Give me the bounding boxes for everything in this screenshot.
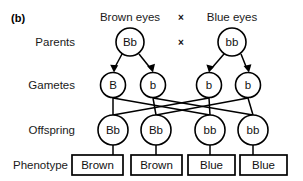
offspring-node-4: bb bbox=[238, 115, 268, 145]
row-label-gametes: Gametes bbox=[28, 79, 75, 91]
phenotype-label-3: Blue bbox=[200, 159, 223, 171]
phenotype-label-4: Blue bbox=[252, 159, 275, 171]
gamete-node-2: b bbox=[141, 73, 166, 98]
punnett-cross-svg: (b) Brown eyes × Blue eyes Parents Gamet… bbox=[0, 0, 303, 181]
offspring-genotype-1: Bb bbox=[106, 124, 120, 136]
offspring-node-3: bb bbox=[195, 115, 225, 145]
phenotype-box-1: Brown bbox=[72, 155, 123, 175]
cross-symbol-top: × bbox=[178, 12, 184, 23]
gamete-allele-2: b bbox=[150, 79, 156, 91]
parent-node-1: Bb bbox=[116, 28, 144, 56]
cross-symbol-parents: × bbox=[178, 37, 184, 48]
offspring-genotype-3: bb bbox=[204, 124, 217, 136]
genetics-cross-diagram: (b) Brown eyes × Blue eyes Parents Gamet… bbox=[0, 0, 303, 181]
phenotype-label-1: Brown bbox=[81, 159, 114, 171]
panel-label: (b) bbox=[11, 12, 25, 24]
parent-genotype-2: bb bbox=[226, 36, 239, 48]
phenotype-box-2: Brown bbox=[131, 155, 182, 175]
gamete-node-1: B bbox=[101, 73, 126, 98]
right-parent-phenotype-label: Blue eyes bbox=[207, 11, 258, 23]
row-label-parents: Parents bbox=[35, 36, 75, 48]
gamete-node-4: b bbox=[236, 73, 261, 98]
left-parent-phenotype-label: Brown eyes bbox=[100, 11, 160, 23]
offspring-genotype-4: bb bbox=[247, 124, 260, 136]
row-label-offspring: Offspring bbox=[29, 124, 75, 136]
parent-node-2: bb bbox=[218, 28, 246, 56]
gamete-allele-4: b bbox=[245, 79, 251, 91]
gamete-allele-3: b bbox=[206, 79, 212, 91]
connector-b3-off3 bbox=[209, 98, 210, 115]
phenotype-box-4: Blue bbox=[240, 155, 287, 175]
offspring-node-2: Bb bbox=[141, 115, 171, 145]
offspring-genotype-2: Bb bbox=[149, 124, 163, 136]
phenotype-box-3: Blue bbox=[188, 155, 235, 175]
row-label-phenotype: Phenotype bbox=[13, 159, 68, 171]
gamete-node-3: b bbox=[197, 73, 222, 98]
gamete-allele-1: B bbox=[109, 79, 117, 91]
phenotype-label-2: Brown bbox=[140, 159, 173, 171]
parent-genotype-1: Bb bbox=[123, 36, 137, 48]
offspring-node-1: Bb bbox=[98, 115, 128, 145]
